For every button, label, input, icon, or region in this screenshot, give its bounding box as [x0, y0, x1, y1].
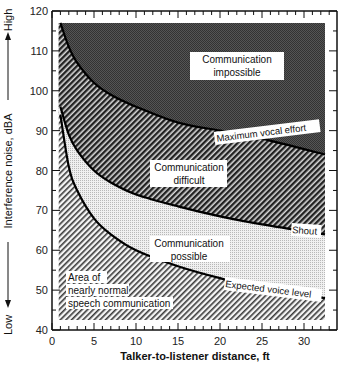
label-normal-line2: nearly normal: [68, 285, 129, 296]
y-tick-label: 90: [36, 125, 48, 137]
y-axis-low: Low: [2, 315, 14, 335]
label-difficult-line1: Communication: [154, 162, 223, 173]
y-tick-label: 80: [36, 165, 48, 177]
y-tick-label: 60: [36, 244, 48, 256]
x-tick-label: 10: [130, 335, 142, 347]
low-label: Low: [2, 315, 14, 335]
label-communication-possible: Communication possible: [150, 236, 230, 262]
y-axis-high: High: [2, 9, 14, 32]
x-tick-label: 5: [91, 335, 97, 347]
y-tick-label: 70: [36, 204, 48, 216]
y-tick-label: 100: [30, 85, 48, 97]
speech-interference-chart: 051015202530405060708090100110120 Commun…: [0, 0, 343, 372]
label-normal-line1: Area of: [68, 272, 100, 283]
label-difficult-line2: difficult: [174, 175, 205, 186]
x-tick-label: 15: [172, 335, 184, 347]
y-tick-label: 110: [30, 45, 48, 57]
y-axis-title: Interference noise, dBA: [2, 113, 14, 229]
x-tick-label: 0: [49, 335, 55, 347]
x-axis-title: Talker-to-listener distance, ft: [120, 350, 270, 362]
y-axis-title-text: Interference noise, dBA: [2, 113, 14, 229]
label-possible-line1: Communication: [154, 238, 223, 249]
label-impossible-line2: impossible: [213, 67, 261, 78]
arrow-up-icon: [5, 32, 11, 100]
label-communication-difficult: Communication difficult: [150, 160, 227, 187]
high-label: High: [2, 9, 14, 32]
label-communication-impossible: Communication impossible: [190, 52, 284, 80]
y-tick-label: 120: [30, 5, 48, 17]
label-possible-line2: possible: [171, 251, 208, 262]
arrow-down-icon: [5, 242, 11, 308]
shout-label-text: Shout: [292, 224, 318, 237]
x-tick-label: 30: [298, 335, 310, 347]
label-normal-line3: speech communication: [68, 298, 170, 309]
label-shout: Shout: [291, 223, 322, 238]
x-tick-label: 20: [214, 335, 226, 347]
label-impossible-line1: Communication: [202, 54, 271, 65]
x-tick-label: 25: [256, 335, 268, 347]
y-tick-label: 40: [36, 324, 48, 336]
y-tick-label: 50: [36, 284, 48, 296]
